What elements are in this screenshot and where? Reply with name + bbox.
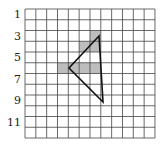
row-label: 5: [14, 51, 21, 64]
shaded-cell: [79, 63, 90, 74]
shaded-cell: [57, 63, 68, 74]
grid-lines: [25, 9, 155, 138]
row-label: 7: [14, 73, 21, 86]
grid-diagram: 1357911: [0, 0, 166, 147]
row-labels: 1357911: [7, 8, 21, 129]
row-label: 11: [7, 116, 21, 129]
row-label: 1: [14, 8, 21, 21]
row-label: 3: [14, 30, 21, 43]
row-label: 9: [14, 94, 21, 107]
shaded-cell: [90, 63, 101, 74]
